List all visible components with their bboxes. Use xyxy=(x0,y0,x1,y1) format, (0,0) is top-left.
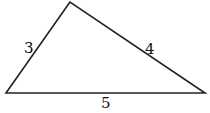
side-label-left: 3 xyxy=(24,41,34,56)
side-label-bottom: 5 xyxy=(101,96,111,111)
triangle xyxy=(6,2,205,93)
side-label-right: 4 xyxy=(145,42,155,57)
